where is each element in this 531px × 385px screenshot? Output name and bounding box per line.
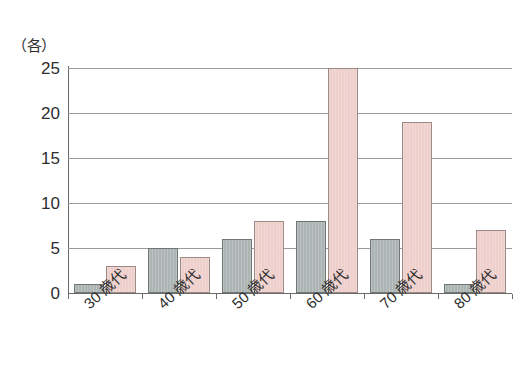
gridline-20 [68, 113, 512, 114]
x-tick-mark-4 [364, 294, 365, 299]
bar-chart: （各） 0510152025 30 歳代40 歳代50 歳代60 歳代70 歳代… [0, 0, 531, 385]
gridline-5 [68, 248, 512, 249]
gridline-25 [68, 68, 512, 69]
y-tick-label-0: 0 [51, 285, 60, 302]
x-tick-mark-1 [142, 294, 143, 299]
x-tick-mark-0 [68, 294, 69, 299]
gridline-15 [68, 158, 512, 159]
plot-area [68, 68, 512, 293]
y-tick-label-20: 20 [41, 105, 60, 122]
x-axis-category-labels: 30 歳代40 歳代50 歳代60 歳代70 歳代80 歳代 [68, 300, 512, 385]
bar-pink-4 [328, 68, 358, 293]
y-tick-label-15: 15 [41, 150, 60, 167]
y-tick-label-25: 25 [41, 60, 60, 77]
y-axis-tick-labels: 0510152025 [0, 68, 60, 293]
x-tick-mark-6 [512, 294, 513, 299]
x-tick-mark-2 [216, 294, 217, 299]
y-tick-label-10: 10 [41, 195, 60, 212]
y-tick-label-5: 5 [51, 240, 60, 257]
y-axis-unit-label: （各） [12, 38, 56, 53]
bar-pink-5 [402, 122, 432, 293]
gridline-10 [68, 203, 512, 204]
x-tick-mark-3 [290, 294, 291, 299]
x-tick-mark-5 [438, 294, 439, 299]
